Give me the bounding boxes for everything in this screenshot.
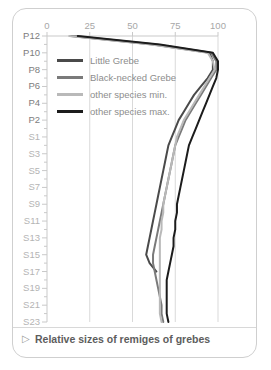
- legend-item: other species max.: [57, 103, 187, 120]
- caption-separator: [13, 327, 256, 328]
- y-tick-label: S23: [10, 316, 40, 327]
- caption-label: Relative sizes of remiges of grebes: [35, 333, 210, 345]
- caption-triangle-icon: ▷: [22, 334, 30, 344]
- chart-legend: Little GrebeBlack-necked Grebeother spec…: [57, 52, 187, 120]
- figure-caption: ▷ Relative sizes of remiges of grebes: [22, 333, 210, 345]
- y-tick-label: P4: [10, 97, 40, 108]
- y-axis-ticks: [42, 36, 47, 322]
- y-tick-label: P10: [10, 47, 40, 58]
- legend-swatch-icon: [57, 110, 83, 113]
- x-tick-label: 100: [205, 20, 231, 31]
- y-tick-label: S9: [10, 198, 40, 209]
- y-tick-label: P6: [10, 80, 40, 91]
- y-tick-label: S7: [10, 181, 40, 192]
- y-tick-label: S3: [10, 148, 40, 159]
- y-tick-label: P2: [10, 114, 40, 125]
- y-tick-label: P12: [10, 30, 40, 41]
- y-tick-label: S13: [10, 232, 40, 243]
- y-tick-label: S21: [10, 299, 40, 310]
- legend-item: Little Grebe: [57, 52, 187, 69]
- y-tick-label: S1: [10, 131, 40, 142]
- x-tick-label: 50: [120, 20, 146, 31]
- x-tick-label: 75: [162, 20, 188, 31]
- legend-label: other species min.: [90, 89, 167, 100]
- y-tick-label: S5: [10, 165, 40, 176]
- legend-item: other species min.: [57, 86, 187, 103]
- legend-label: other species max.: [90, 106, 170, 117]
- y-tick-label: P8: [10, 64, 40, 75]
- y-tick-label: S11: [10, 215, 40, 226]
- legend-swatch-icon: [57, 93, 83, 96]
- y-tick-label: S19: [10, 282, 40, 293]
- x-tick-label: 25: [77, 20, 103, 31]
- legend-item: Black-necked Grebe: [57, 69, 187, 86]
- legend-label: Black-necked Grebe: [90, 72, 176, 83]
- y-tick-label: S17: [10, 266, 40, 277]
- legend-label: Little Grebe: [90, 55, 139, 66]
- legend-swatch-icon: [57, 59, 83, 62]
- y-tick-label: S15: [10, 249, 40, 260]
- legend-swatch-icon: [57, 76, 83, 79]
